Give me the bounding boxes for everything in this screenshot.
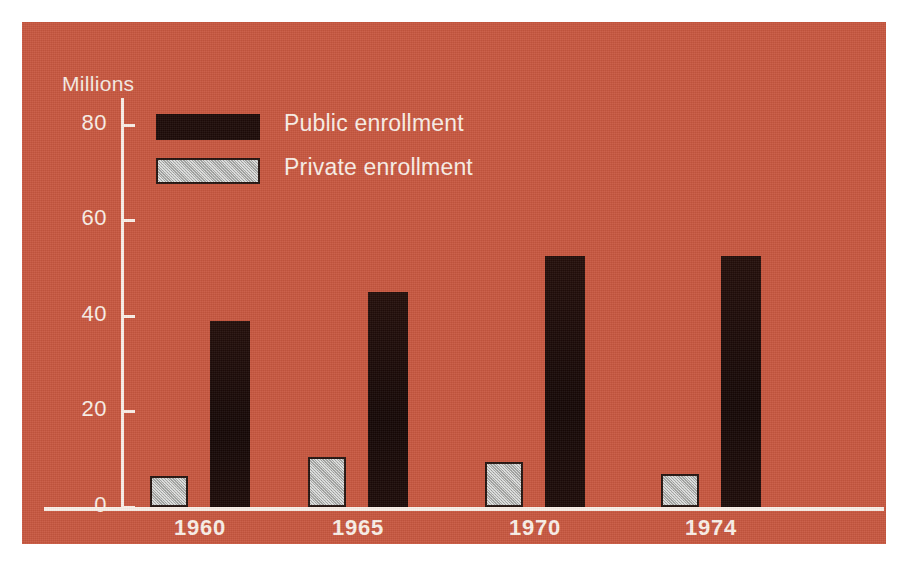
public-swatch-icon bbox=[156, 114, 260, 140]
legend-label-private: Private enrollment bbox=[284, 154, 473, 181]
y-tick-label: 60 bbox=[45, 205, 107, 231]
x-tick-label: 1965 bbox=[288, 515, 428, 541]
y-tick-mark bbox=[121, 506, 135, 509]
x-tick-label: 1970 bbox=[465, 515, 605, 541]
x-axis-line bbox=[44, 507, 884, 511]
y-axis-line bbox=[121, 98, 124, 507]
private-swatch-icon bbox=[156, 158, 260, 184]
bar-public-1960 bbox=[210, 321, 250, 507]
y-tick-mark bbox=[121, 219, 135, 222]
y-tick-mark bbox=[121, 315, 135, 318]
legend-label-public: Public enrollment bbox=[284, 110, 464, 137]
y-tick-label: 20 bbox=[45, 396, 107, 422]
y-tick-label: 80 bbox=[45, 110, 107, 136]
bar-private-1970 bbox=[485, 462, 523, 507]
bar-private-1960 bbox=[150, 476, 188, 507]
bar-public-1974 bbox=[721, 256, 761, 507]
bar-public-1970 bbox=[545, 256, 585, 507]
y-tick-mark bbox=[121, 124, 135, 127]
y-axis-unit-label: Millions bbox=[62, 72, 134, 96]
bar-public-1965 bbox=[368, 292, 408, 507]
chart-figure: Millions Public enrollment Private enrol… bbox=[0, 0, 908, 569]
x-tick-label: 1974 bbox=[641, 515, 781, 541]
chart-plate: Millions Public enrollment Private enrol… bbox=[22, 22, 886, 544]
y-tick-label: 0 bbox=[45, 492, 107, 518]
y-tick-label: 40 bbox=[45, 301, 107, 327]
bar-private-1965 bbox=[308, 457, 346, 507]
y-tick-mark bbox=[121, 410, 135, 413]
x-tick-label: 1960 bbox=[130, 515, 270, 541]
bar-private-1974 bbox=[661, 474, 699, 507]
